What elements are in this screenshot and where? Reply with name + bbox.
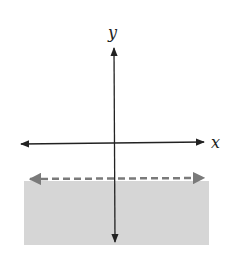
shaded-region: [24, 181, 209, 245]
coordinate-plane: y x: [0, 0, 226, 267]
x-axis: [21, 142, 204, 144]
y-axis-label: y: [107, 23, 118, 42]
x-axis-label: x: [211, 133, 220, 152]
dashed-boundary-line: [30, 178, 204, 179]
